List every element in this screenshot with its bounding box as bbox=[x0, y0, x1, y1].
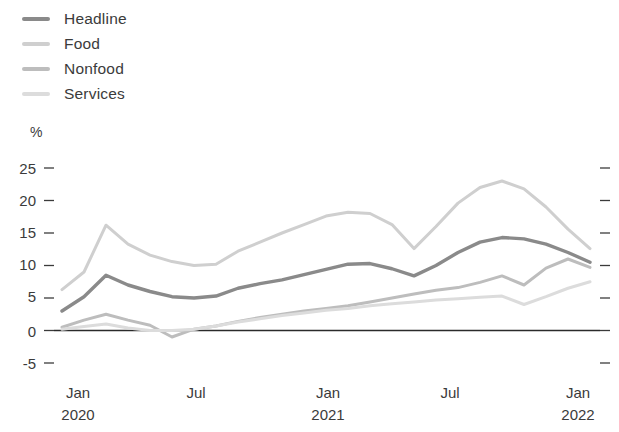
inflation-line-chart: Headline Food Nonfood Services % 25 20 1… bbox=[0, 0, 619, 432]
series-line-food bbox=[62, 181, 590, 290]
plot-area bbox=[0, 0, 619, 432]
